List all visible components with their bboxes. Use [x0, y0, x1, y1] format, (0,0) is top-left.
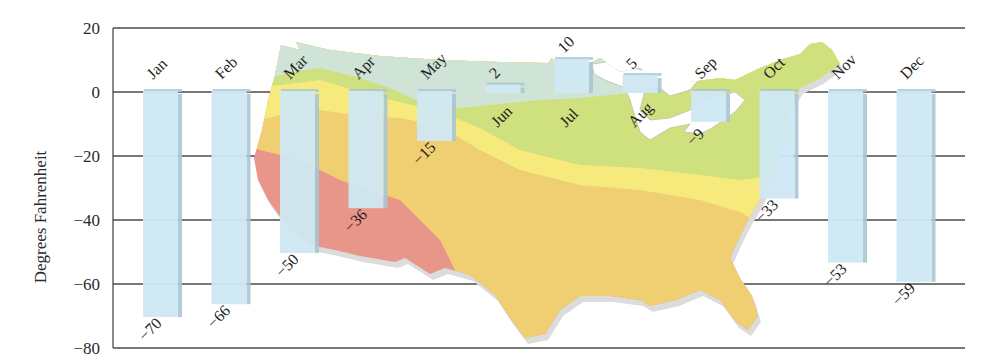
temperature-chart: 200−20−40−60−80 JanFebMarAprMayJunJulAug… — [0, 0, 986, 363]
month-label: Sep — [691, 53, 721, 83]
value-label: −53 — [820, 260, 850, 290]
bar-may — [417, 89, 456, 141]
y-tick-label: 0 — [92, 83, 101, 102]
bar-apr — [349, 89, 388, 208]
value-label: 10 — [554, 33, 577, 56]
bar-dec — [897, 89, 936, 282]
value-label: −70 — [135, 314, 165, 344]
month-label: Feb — [212, 53, 241, 82]
y-tick-label: −40 — [73, 211, 100, 230]
value-label: −50 — [272, 250, 302, 280]
bar-nov — [828, 89, 867, 263]
bar-sep — [691, 89, 730, 122]
month-label: Jan — [143, 55, 170, 82]
y-tick-label: −60 — [73, 275, 100, 294]
y-tick-labels: 200−20−40−60−80 — [73, 19, 100, 358]
y-axis-title: Degrees Fahrenheit — [31, 150, 50, 283]
bar-aug — [623, 73, 662, 93]
bar-oct — [760, 89, 799, 199]
bar-feb — [212, 89, 251, 304]
bar-jun — [486, 83, 525, 93]
bar-jul — [554, 57, 593, 93]
bar-jan — [143, 89, 182, 317]
y-tick-label: 20 — [83, 19, 100, 38]
y-tick-label: −80 — [73, 339, 100, 358]
bar-mar — [280, 89, 319, 253]
y-tick-label: −20 — [73, 147, 100, 166]
month-label: Dec — [897, 52, 927, 82]
value-label: −66 — [204, 302, 234, 332]
